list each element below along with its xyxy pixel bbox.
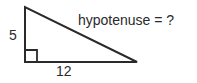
horizontal-side-label: 12 <box>56 64 72 78</box>
right-triangle-diagram: 5 12 hypotenuse = ? <box>0 0 197 83</box>
right-angle-marker <box>25 50 37 62</box>
vertical-side-label: 5 <box>9 28 17 42</box>
hypotenuse-label: hypotenuse = ? <box>78 13 174 27</box>
